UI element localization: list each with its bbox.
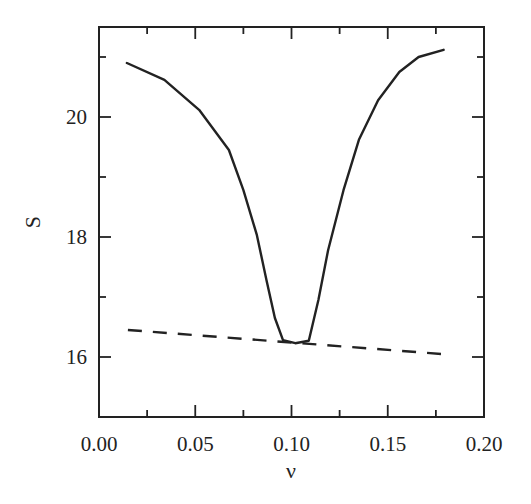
x-tick-label: 0.10 bbox=[273, 432, 310, 456]
plot-area: 0.000.050.100.150.20161820 bbox=[66, 27, 502, 456]
axis-ticks bbox=[99, 27, 484, 417]
plot-frame bbox=[99, 27, 484, 417]
dashed-line bbox=[128, 330, 442, 354]
chart: 0.000.050.100.150.20161820 ν S bbox=[0, 0, 531, 504]
x-tick-label: 0.00 bbox=[81, 432, 118, 456]
x-tick-label: 0.20 bbox=[466, 432, 503, 456]
x-axis-label: ν bbox=[286, 458, 296, 483]
x-tick-label: 0.15 bbox=[369, 432, 406, 456]
y-tick-label: 16 bbox=[66, 345, 87, 369]
x-tick-label: 0.05 bbox=[177, 432, 214, 456]
tick-labels: 0.000.050.100.150.20161820 bbox=[66, 105, 502, 456]
y-tick-label: 18 bbox=[66, 225, 87, 249]
solid-curve bbox=[127, 50, 444, 343]
y-tick-label: 20 bbox=[66, 105, 87, 129]
y-axis-label: S bbox=[20, 216, 45, 228]
